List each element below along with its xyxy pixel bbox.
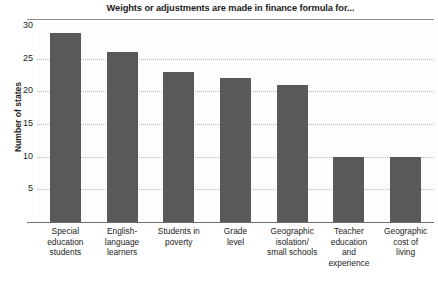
x-axis-label-line: students — [37, 247, 94, 258]
bar[interactable] — [333, 157, 364, 222]
x-axis-category-labels: SpecialeducationstudentsEnglish-language… — [37, 226, 434, 286]
bar[interactable] — [277, 85, 308, 222]
x-axis-label-line: Geographic — [377, 226, 434, 237]
y-tick-label-5: 5 — [28, 185, 33, 194]
x-axis-label-line: Teacher — [321, 226, 378, 237]
bar[interactable] — [390, 157, 421, 222]
x-axis-label-line: and — [321, 247, 378, 258]
y-axis-title: Number of states — [13, 57, 23, 177]
y-tick-label-15: 15 — [23, 119, 33, 128]
x-axis-label: Specialeducationstudents — [37, 226, 94, 258]
x-axis-label-line: English- — [94, 226, 151, 237]
x-axis-label-line: living — [377, 247, 434, 258]
x-axis-label: Gradelevel — [207, 226, 264, 247]
x-axis-label-line: Grade — [207, 226, 264, 237]
y-tick-label-10: 10 — [23, 152, 33, 161]
x-axis-label: Students inpoverty — [150, 226, 207, 247]
x-axis-label: Geographicisolation/small schools — [264, 226, 321, 258]
bar-chart-figure: Weights or adjustments are made in finan… — [0, 0, 438, 288]
y-tick-label-30: 30 — [23, 21, 33, 30]
x-axis-label-line: learners — [94, 247, 151, 258]
x-axis-label-line: isolation/ — [264, 237, 321, 248]
plot-area: 51015202530 — [37, 26, 434, 222]
x-axis-label-line: Geographic — [264, 226, 321, 237]
x-axis-label: English-languagelearners — [94, 226, 151, 258]
x-axis-label: Teachereducationandexperience — [321, 226, 378, 268]
title-divider — [27, 19, 434, 20]
x-axis-label-line: Special — [37, 226, 94, 237]
bar[interactable] — [107, 52, 138, 222]
x-axis-label: Geographiccost ofliving — [377, 226, 434, 258]
x-axis-line — [27, 222, 434, 223]
x-axis-label-line: Students in — [150, 226, 207, 237]
x-axis-label-line: cost of — [377, 237, 434, 248]
x-axis-label-line: experience — [321, 258, 378, 269]
x-axis-label-line: language — [94, 237, 151, 248]
y-tick-label-20: 20 — [23, 87, 33, 96]
x-axis-label-line: education — [37, 237, 94, 248]
y-tick-label-25: 25 — [23, 54, 33, 63]
bar[interactable] — [163, 72, 194, 222]
x-axis-label-line: education — [321, 237, 378, 248]
x-axis-label-line: small schools — [264, 247, 321, 258]
gridline-25 — [37, 59, 434, 60]
bar[interactable] — [220, 78, 251, 222]
bar[interactable] — [50, 33, 81, 222]
chart-title: Weights or adjustments are made in finan… — [27, 2, 434, 16]
x-axis-label-line: level — [207, 237, 264, 248]
x-axis-label-line: poverty — [150, 237, 207, 248]
